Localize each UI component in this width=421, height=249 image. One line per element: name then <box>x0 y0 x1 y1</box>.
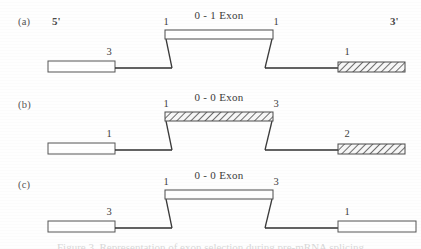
panel-b-left-box-number: 1 <box>102 128 116 139</box>
panel-a-left-box <box>48 61 115 72</box>
panel-a-splice-left <box>166 39 172 68</box>
panel-c-exon-right-number: 3 <box>269 176 283 187</box>
panel-a-exon-left-number: 1 <box>159 16 173 27</box>
panel-a-five-prime-label: 5' <box>52 15 61 27</box>
diagram-canvas <box>0 0 421 249</box>
panel-c-exon-box <box>165 190 273 199</box>
panel-a-exon-box <box>165 30 273 39</box>
panel-c-left-box <box>48 221 115 232</box>
panel-a-exon-right-number: 1 <box>269 16 283 27</box>
panel-c-left-box-number: 3 <box>102 206 116 217</box>
splicing-figure: (a) 5' 3' 0 - 1 Exon 1 1 3 1 (b) 0 - 0 E… <box>0 0 421 249</box>
panel-a-right-box-number: 1 <box>340 46 354 57</box>
panel-b-left-box <box>48 143 115 154</box>
panel-c-exon-title: 0 - 0 Exon <box>164 169 274 181</box>
panel-a-label: (a) <box>18 16 30 27</box>
panel-a-splice-right <box>265 39 272 68</box>
caption-sliver: Figure 3. Representation of exon selecti… <box>0 241 421 249</box>
panel-a-three-prime-label: 3' <box>390 15 399 27</box>
panel-b-right-box-number: 2 <box>340 128 354 139</box>
panel-b-exon-right-number: 3 <box>269 98 283 109</box>
panel-b-exon-left-number: 1 <box>159 98 173 109</box>
panel-a-right-box <box>338 62 405 72</box>
panel-b-splice-left <box>166 121 172 150</box>
panel-b-splice-right <box>265 121 272 150</box>
panel-c-splice-right <box>265 199 272 228</box>
panel-c-right-box <box>338 221 416 232</box>
panel-a-exon-title: 0 - 1 Exon <box>164 9 274 21</box>
panel-c-label: (c) <box>18 179 30 190</box>
panel-a-left-box-number: 3 <box>102 46 116 57</box>
panel-b-exon-box <box>165 112 273 121</box>
panel-b-exon-title: 0 - 0 Exon <box>164 91 274 103</box>
panel-b-label: (b) <box>18 99 31 110</box>
panel-c-exon-left-number: 1 <box>159 176 173 187</box>
panel-c-splice-left <box>166 199 172 228</box>
panel-b-right-box <box>338 144 405 154</box>
panel-c-right-box-number: 1 <box>340 206 354 217</box>
